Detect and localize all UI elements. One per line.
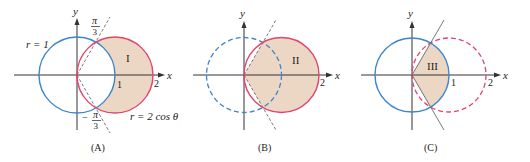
tick-1-label: 1 xyxy=(117,79,122,90)
blue-circle-label: r = 1 xyxy=(26,38,49,50)
x-axis-arrow-icon xyxy=(326,73,333,78)
region-label-i: I xyxy=(126,52,130,64)
tick-2-label: 2 xyxy=(154,78,159,89)
x-axis-label: x xyxy=(502,69,508,81)
x-axis-label: x xyxy=(166,69,172,81)
y-axis-arrow-icon xyxy=(75,18,80,25)
y-axis-arrow-icon xyxy=(242,21,247,28)
y-axis-label: y xyxy=(239,7,245,19)
region-label-iii: III xyxy=(427,60,438,72)
x-axis-label: x xyxy=(334,69,340,81)
x-axis-arrow-icon xyxy=(158,73,165,78)
caption-b: (B) xyxy=(258,142,271,154)
panel-c: y x III 1 2 (C) xyxy=(361,7,508,154)
angle-bottom-numerator: π xyxy=(93,109,99,120)
panel-b: y x II 2 (B) xyxy=(193,7,340,154)
y-axis-arrow-icon xyxy=(410,21,415,28)
y-axis-label: y xyxy=(72,5,78,17)
tick-1-label: 1 xyxy=(451,77,456,88)
panel-a: y x r = 1 r = 2 cos θ I 1 2 π 3 − π 3 (A… xyxy=(14,5,179,154)
polar-regions-figure: y x r = 1 r = 2 cos θ I 1 2 π 3 − π 3 (A… xyxy=(0,0,530,162)
tick-2-label: 2 xyxy=(320,77,325,88)
caption-c: (C) xyxy=(424,142,437,154)
region-label-ii: II xyxy=(292,54,300,66)
angle-top-numerator: π xyxy=(92,15,98,26)
red-circle-label: r = 2 cos θ xyxy=(130,110,179,122)
tick-2-label: 2 xyxy=(488,77,493,88)
x-axis-arrow-icon xyxy=(494,73,501,78)
y-axis-label: y xyxy=(407,7,413,19)
caption-a: (A) xyxy=(91,142,105,154)
angle-bottom-denominator: 3 xyxy=(94,121,99,131)
angle-bottom-sign: − xyxy=(82,112,88,123)
angle-top-denominator: 3 xyxy=(93,27,98,37)
